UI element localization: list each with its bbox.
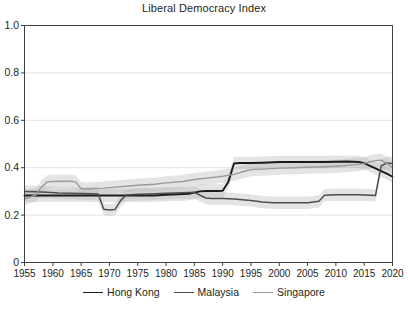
legend-swatch-icon (83, 292, 103, 293)
legend-item[interactable]: Singapore (253, 286, 325, 298)
legend-swatch-icon (253, 292, 273, 293)
legend-label: Hong Kong (107, 286, 160, 298)
uncertainty-bands (25, 153, 393, 215)
y-tick-label: 0.8 (0, 66, 19, 78)
y-tick-label: 0 (0, 256, 19, 268)
x-tick-label: 2020 (376, 268, 408, 279)
y-tick-label: 0.6 (0, 114, 19, 126)
chart-figure: Liberal Democracy Index 00.20.40.60.81.0… (0, 0, 408, 313)
y-tick-label: 0.2 (0, 209, 19, 221)
legend-swatch-icon (174, 292, 194, 293)
legend-label: Malaysia (198, 286, 239, 298)
chart-legend: Hong KongMalaysiaSingapore (0, 286, 408, 298)
legend-item[interactable]: Malaysia (174, 286, 239, 298)
axis-ticks (21, 26, 393, 267)
legend-item[interactable]: Hong Kong (83, 286, 160, 298)
plot-area (0, 0, 408, 313)
y-tick-label: 0.4 (0, 161, 19, 173)
legend-label: Singapore (277, 286, 325, 298)
axis-frame (25, 26, 393, 263)
y-tick-label: 1.0 (0, 19, 19, 31)
